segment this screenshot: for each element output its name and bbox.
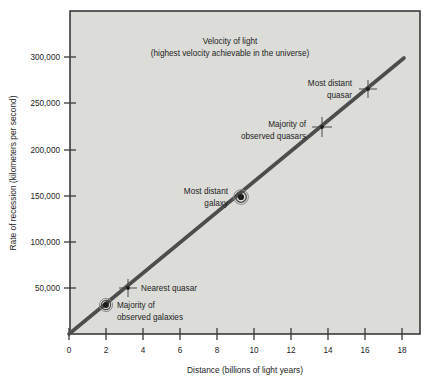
y-tick-label-300000: 300,000 [30, 53, 60, 62]
datapoint-most-distant-quasar-label-line2: quasar [327, 91, 352, 100]
x-tick-label-12: 12 [286, 346, 296, 355]
annotation-velocity-of-light-line2: (highest velocity achievable in the univ… [151, 49, 310, 58]
y-tick-label-150000: 150,000 [30, 192, 60, 201]
x-tick-label-6: 6 [178, 346, 183, 355]
datapoint-most-distant-galaxy-label-line1: Most distant [184, 187, 229, 196]
x-tick-label-16: 16 [360, 346, 370, 355]
y-tick-label-50000: 50,000 [35, 284, 60, 293]
plot-area-background [70, 11, 420, 334]
datapoint-majority-observed-galaxies-label-line1: Majority of [117, 301, 155, 310]
x-axis-title: Distance (billions of light years) [187, 365, 303, 375]
galaxy-spiral-icon [234, 190, 249, 205]
x-tick-label-0: 0 [67, 346, 72, 355]
y-axis-title: Rate of recession (kilometers per second… [8, 95, 18, 250]
datapoint-majority-observed-galaxies-label-line2: observed galaxies [117, 313, 183, 322]
x-tick-label-4: 4 [141, 346, 146, 355]
galaxy-core [103, 302, 109, 308]
datapoint-majority-observed-quasars-label-line1: Majority of [268, 120, 306, 129]
y-tick-label-100000: 100,000 [30, 238, 60, 247]
datapoint-dot [126, 286, 130, 290]
datapoint-most-distant-galaxy-label-line2: galaxy [204, 199, 229, 208]
x-tick-label-10: 10 [249, 346, 259, 355]
galaxy-core [238, 194, 244, 200]
annotation-velocity-of-light-line1: Velocity of light [203, 37, 258, 46]
x-tick-label-18: 18 [397, 346, 407, 355]
x-tick-label-14: 14 [323, 346, 333, 355]
datapoint-dot [366, 87, 370, 91]
datapoint-nearest-quasar-label: Nearest quasar [141, 284, 197, 293]
datapoint-most-distant-quasar-label-line1: Most distant [308, 79, 353, 88]
y-tick-label-250000: 250,000 [30, 99, 60, 108]
galaxy-spiral-icon [99, 298, 112, 311]
datapoint-dot [320, 125, 324, 129]
x-tick-label-8: 8 [215, 346, 220, 355]
y-tick-label-200000: 200,000 [30, 146, 60, 155]
datapoint-majority-observed-quasars-label-line2: observed quasars [241, 132, 306, 141]
x-tick-label-2: 2 [104, 346, 109, 355]
hubble-diagram-chart: 50,000 100,000 150,000 200,000 250,000 3… [0, 0, 443, 380]
figure-container: 50,000 100,000 150,000 200,000 250,000 3… [0, 0, 443, 380]
